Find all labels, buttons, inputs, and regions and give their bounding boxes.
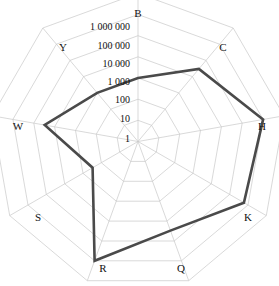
grid-ring-1000000 <box>0 0 279 281</box>
tick-label-10000: 10 000 <box>103 58 131 69</box>
axis-label-C: C <box>219 41 226 53</box>
tick-label-10: 10 <box>120 113 130 124</box>
axis-label-S: S <box>35 211 41 223</box>
axis-label-H: H <box>258 120 266 132</box>
grid-rings <box>0 0 279 281</box>
axis-spokes <box>0 0 279 281</box>
axis-spoke-Q <box>138 142 189 281</box>
axis-label-Q: Q <box>177 262 185 274</box>
tick-label-100000: 100 000 <box>98 40 131 51</box>
axis-category-labels: B C H K Q R S W Y <box>13 7 266 274</box>
axis-label-K: K <box>244 211 252 223</box>
axis-label-Y: Y <box>59 41 67 53</box>
axis-label-W: W <box>13 120 24 132</box>
axis-label-R: R <box>99 262 107 274</box>
axis-spoke-K <box>138 142 266 216</box>
tick-label-1000000: 1 000 000 <box>90 21 130 32</box>
tick-label-100: 100 <box>115 94 130 105</box>
radar-chart-svg: 1 000 000 100 000 10 000 1 000 100 10 1 … <box>0 0 279 286</box>
tick-label-1: 1 <box>125 133 130 144</box>
data-series-polygon <box>45 69 263 261</box>
axis-label-B: B <box>134 7 141 19</box>
tick-label-1000: 1 000 <box>108 76 131 87</box>
radar-chart: 1 000 000 100 000 10 000 1 000 100 10 1 … <box>0 0 279 286</box>
